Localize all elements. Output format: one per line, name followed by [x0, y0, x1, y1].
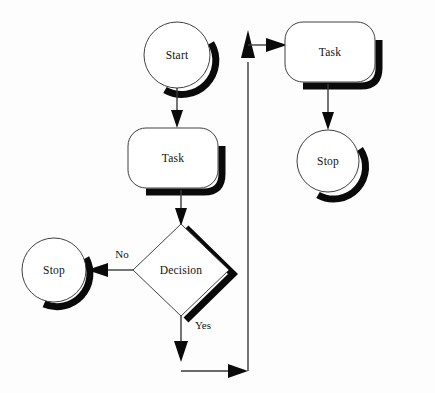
arrowhead-down [171, 110, 183, 128]
node-stop-left[interactable]: Stop [22, 238, 86, 302]
arrowhead-right [266, 38, 287, 52]
edge-label-yes: Yes [195, 319, 211, 331]
arrowhead-down [175, 208, 187, 226]
node-start[interactable]: Start [144, 22, 210, 88]
stop-right-label: Stop [317, 155, 339, 168]
flowchart-canvas: Start Task Decision Stop Task Stop No [0, 0, 435, 393]
node-task-main[interactable]: Task [128, 128, 218, 188]
edge-task-right-to-stop-right [322, 84, 334, 130]
edge-loop-riser-to-task-right [241, 30, 287, 371]
edge-decision-to-stop-left [87, 263, 133, 277]
edge-label-no: No [115, 248, 129, 260]
arrowhead-up [241, 30, 255, 58]
stop-left-label: Stop [43, 264, 65, 277]
arrowhead-down [174, 341, 188, 362]
arrowhead-down [322, 112, 334, 130]
task-right-label: Task [319, 46, 341, 58]
node-decision[interactable]: Decision [133, 224, 229, 316]
decision-node-label: Decision [160, 264, 203, 276]
node-task-right[interactable]: Task [285, 22, 375, 82]
node-stop-right[interactable]: Stop [297, 130, 359, 192]
flowchart-svg: Start Task Decision Stop Task Stop No [0, 0, 435, 393]
arrowhead-right [228, 364, 248, 378]
task-main-label: Task [162, 152, 184, 164]
start-node-label: Start [166, 49, 189, 61]
